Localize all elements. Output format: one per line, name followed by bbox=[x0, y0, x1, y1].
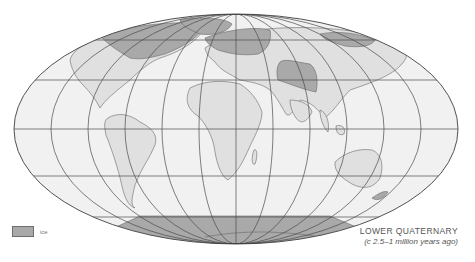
ice-swatch bbox=[12, 226, 34, 237]
legend-label: ice bbox=[40, 229, 48, 235]
legend: ice bbox=[12, 226, 48, 237]
period-title: LOWER QUATERNARY bbox=[360, 226, 458, 236]
period-subtitle: (c 2.5–1 million years ago) bbox=[360, 237, 458, 246]
world-map bbox=[0, 0, 475, 262]
map-title: LOWER QUATERNARY (c 2.5–1 million years … bbox=[360, 226, 458, 246]
